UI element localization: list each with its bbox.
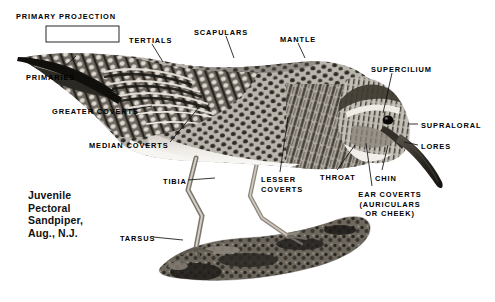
label-scapulars: SCAPULARS [194,28,248,38]
label-mantle: MANTLE [280,35,316,45]
figure-caption: Juvenile Pectoral Sandpiper, Aug., N.J. [28,189,83,239]
bird-topography-figure: PRIMARY PROJECTIONPRIMARIESTERTIALSSCAPU… [0,0,495,302]
label-supraloral: SUPRALORAL [421,121,481,131]
label-lesser-coverts: LESSER COVERTS [261,175,303,194]
label-median-coverts: MEDIAN COVERTS [89,141,169,151]
label-supercilium: SUPERCILIUM [371,65,432,75]
label-lores: LORES [421,142,451,152]
label-primaries: PRIMARIES [26,73,75,83]
label-chin: CHIN [375,174,397,184]
label-throat: THROAT [320,173,356,183]
label-tibia: TIBIA [163,177,187,187]
label-ear-coverts: EAR COVERTS (AURICULARS OR CHEEK) [330,190,450,219]
label-tertials: TERTIALS [129,36,172,46]
label-tarsus: TARSUS [120,234,155,244]
label-greater-coverts: GREATER COVERTS [52,107,139,117]
bird-eye [383,115,394,124]
label-primary-projection: PRIMARY PROJECTION [16,12,116,22]
